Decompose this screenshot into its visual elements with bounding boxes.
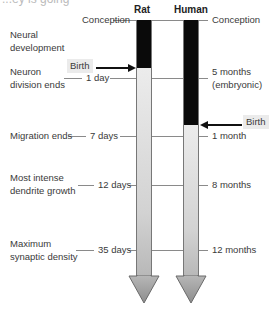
dendrite-line-left [78,185,94,186]
rat-birth-label: Birth [67,59,93,73]
human-5months-label-2: (embryonic) [212,79,262,91]
synaptic-label-1: Maximum [10,238,51,250]
rat-birth-arrow-line [96,67,130,69]
human-birth-arrow-icon [200,121,208,129]
human-prenatal-bar [183,20,199,125]
dendrite-label-2: dendrite growth [10,185,75,197]
synaptic-line-left [76,250,94,251]
rat-birth-arrow-icon [128,64,136,72]
neuron-division-line [64,78,82,79]
rat-35days-label: 35 days [98,244,131,256]
human-8months-label: 8 months [212,179,251,191]
human-postnatal-bar [183,125,199,276]
human-birth-label: Birth [243,115,269,129]
neural-dev-label-2: development [10,42,64,54]
synaptic-label-2: synaptic density [10,251,78,263]
human-12months-label: 12 months [212,244,256,256]
human-arrowhead-icon [175,275,207,305]
rat-prenatal-bar [136,20,152,68]
human-birth-arrow-line [206,124,242,126]
dendrite-label-1: Most intense [10,172,64,184]
rat-1day-label: 1 day [86,72,109,84]
rat-header: Rat [134,4,150,15]
rat-12days-label: 12 days [98,179,131,191]
neuron-division-label-2: division ends [10,79,65,91]
cut-off-heading: ...ey is going [2,0,69,6]
migration-label: Migration ends [10,130,72,142]
rat-arrowhead-icon [128,275,160,305]
human-5months-label-1: 5 months [212,66,251,78]
conception-label-left: Conception [82,14,130,26]
rat-7days-label: 7 days [90,130,118,142]
human-1month-label: 1 month [212,130,246,142]
rat-postnatal-bar [136,68,152,276]
neural-dev-label-1: Neural [10,29,38,41]
conception-label-right: Conception [212,14,260,26]
neuron-division-label-1: Neuron [10,66,41,78]
human-header: Human [174,4,208,15]
